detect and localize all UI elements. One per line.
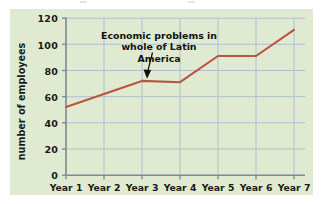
y-tick-label-20: 20 <box>32 144 58 155</box>
annotation-line-1: Economic problems in <box>101 30 217 41</box>
x-tick-label-year-1: Year 1 <box>46 182 86 193</box>
x-tick-label-year-5: Year 5 <box>198 182 238 193</box>
y-tick-label-0: 0 <box>32 170 58 181</box>
x-tick-label-year-6: Year 6 <box>236 182 276 193</box>
y-tick-label-100: 100 <box>32 40 58 51</box>
annotation-label: Economic problems in whole of Latin Amer… <box>101 30 217 64</box>
x-tick-label-year-3: Year 3 <box>122 182 162 193</box>
x-tick-label-year-2: Year 2 <box>84 182 124 193</box>
y-axis-title: number of employees <box>16 37 27 167</box>
x-tick-label-year-4: Year 4 <box>160 182 200 193</box>
x-tick-label-year-7: Year 7 <box>274 182 314 193</box>
annotation-line-2: whole of Latin America <box>101 41 217 64</box>
y-tick-label-80: 80 <box>32 66 58 77</box>
y-tick-label-60: 60 <box>32 92 58 103</box>
y-tick-label-40: 40 <box>32 118 58 129</box>
chart-figure: 0 20 40 60 80 100 120 Year 1 Year 2 Year… <box>0 0 321 204</box>
y-tick-label-120: 120 <box>32 13 58 24</box>
